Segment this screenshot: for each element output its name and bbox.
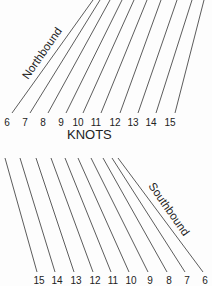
knot-label: 6: [202, 275, 208, 286]
speed-line-13: [138, 0, 177, 113]
speed-line-6: [118, 158, 203, 272]
knot-label: 15: [164, 117, 176, 128]
knot-label: 13: [127, 117, 139, 128]
knots-diagram: 6789101112131415 Northbound KNOTS 151413…: [0, 0, 212, 286]
speed-line-10: [78, 158, 129, 272]
diagram-canvas: 6789101112131415 Northbound KNOTS 151413…: [0, 0, 212, 286]
knot-label: 14: [145, 117, 157, 128]
speed-line-9: [66, 0, 122, 113]
speed-line-14: [20, 158, 55, 272]
knot-label: 6: [4, 117, 10, 128]
knot-label: 12: [89, 275, 101, 286]
speed-line-15: [175, 0, 204, 113]
speed-line-13: [36, 158, 74, 272]
speed-line-15: [5, 158, 37, 272]
knot-label: 13: [70, 275, 82, 286]
northbound-label: Northbound: [20, 25, 64, 81]
knot-label: 11: [108, 275, 119, 286]
knot-label: 9: [58, 117, 64, 128]
southbound-label: Southbound: [146, 180, 191, 238]
knot-label: 10: [125, 275, 137, 286]
speed-line-6: [12, 0, 93, 113]
knot-label: 14: [51, 275, 63, 286]
knot-label: 7: [184, 275, 190, 286]
speed-line-14: [156, 0, 192, 113]
speed-line-8: [103, 158, 167, 272]
knot-label: 9: [147, 275, 153, 286]
knot-label: 8: [166, 275, 172, 286]
knot-label: 15: [33, 275, 45, 286]
speed-line-8: [48, 0, 110, 113]
knot-label: 7: [22, 117, 28, 128]
speed-line-9: [91, 158, 148, 272]
knot-label: 8: [40, 117, 46, 128]
knots-axis-title: KNOTS: [67, 127, 112, 142]
southbound-knot-labels: 1514131211109876: [33, 275, 208, 286]
